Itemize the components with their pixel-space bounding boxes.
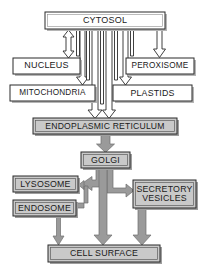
node-label-cytosol: CYTOSOL	[45, 12, 165, 29]
arrow-shaft-extra-5	[131, 29, 134, 56]
arrow-er-golgi	[97, 134, 115, 153]
arrow-cytosol-plastids	[120, 29, 132, 85]
node-label-lysosome: LYSOSOME	[13, 176, 78, 192]
node-label-secretory-vesicles: SECRETORY VESICLES	[133, 180, 196, 208]
arrow-cytosol-er-left	[88, 29, 102, 119]
node-label-mitochondria: MITOCHONDRIA	[10, 85, 95, 101]
arrow-golgi-secretory	[107, 168, 134, 197]
arrow-shaft-extra-4	[77, 29, 80, 56]
arrow-shaft-extra-2	[115, 29, 118, 80]
arrow-cytosol-nucleus	[63, 30, 74, 58]
node-label-nucleus: NUCLEUS	[13, 58, 80, 74]
arrow-cellsurface-endosome	[53, 216, 64, 245]
node-label-endosome: ENDOSOME	[13, 200, 76, 216]
arrow-secretory-cellsurface	[133, 208, 151, 245]
node-label-peroxisome: PEROXISOME	[126, 58, 194, 74]
node-label-endoplasmic-reticulum: ENDOPLASMIC RETICULUM	[33, 118, 177, 134]
arrow-shaft-extra-3	[87, 29, 90, 80]
diagram-canvas: CYTOSOL NUCLEUS PEROXISOME MITOCHONDRIA …	[0, 0, 206, 268]
arrow-cytosol-peroxisome	[154, 29, 166, 58]
diagram-graphics	[0, 0, 206, 268]
node-label-plastids: PLASTIDS	[113, 85, 192, 101]
arrow-shaft-extra-1	[101, 29, 104, 104]
arrow-cytosol-er-right	[103, 29, 116, 119]
node-label-golgi: GOLGI	[81, 152, 130, 168]
node-label-cell-surface: CELL SURFACE	[48, 245, 160, 262]
